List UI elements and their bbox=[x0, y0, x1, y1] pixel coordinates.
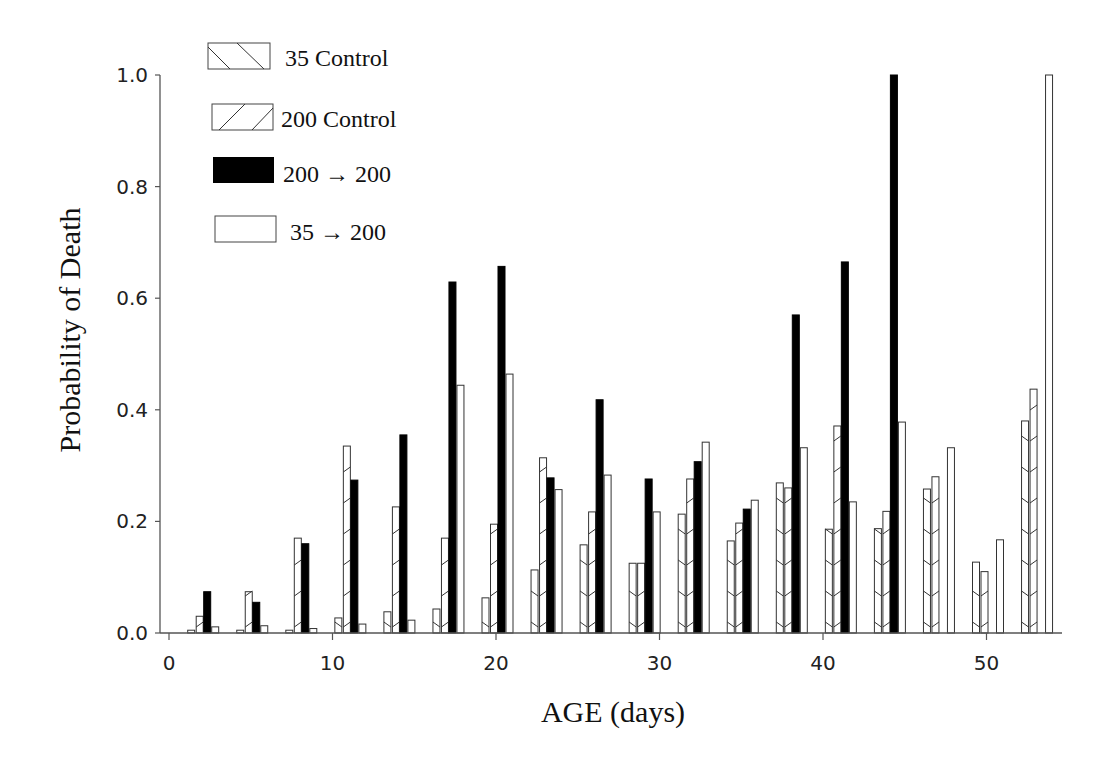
bar-open bbox=[800, 448, 807, 633]
bar-open bbox=[506, 374, 513, 633]
y-tick-label: 0.0 bbox=[116, 621, 148, 645]
legend: 35 Control200 Control200 → 20035 → 200 bbox=[208, 43, 397, 245]
bar-solid-black bbox=[547, 478, 554, 633]
bar-slash-hatch bbox=[245, 591, 252, 633]
bar-group-day-41 bbox=[825, 262, 856, 633]
bar-group-day-38 bbox=[776, 315, 807, 633]
legend-item: 35 → 200 bbox=[215, 216, 386, 245]
bar-slash-hatch bbox=[981, 572, 988, 633]
bar-slash-hatch bbox=[736, 523, 743, 633]
bar-slash-hatch bbox=[540, 458, 547, 633]
legend-item: 200 → 200 bbox=[213, 157, 391, 187]
legend-label: 35 Control bbox=[285, 45, 389, 71]
bar-solid-black bbox=[792, 315, 799, 633]
bar-slash-hatch bbox=[441, 538, 448, 633]
bar-group-day-35 bbox=[727, 500, 758, 633]
bar-slash-hatch bbox=[932, 477, 939, 633]
y-axis-title: Probability of Death bbox=[53, 208, 86, 453]
bar-solid-black bbox=[400, 435, 407, 633]
bar-open bbox=[997, 540, 1004, 633]
bar-slash-hatch bbox=[883, 511, 890, 633]
x-tick-label: 0 bbox=[163, 651, 176, 675]
x-tick-label: 40 bbox=[810, 651, 835, 675]
bar-backslash-hatch bbox=[482, 598, 489, 633]
bar-solid-black bbox=[596, 400, 603, 633]
bar-slash-hatch bbox=[687, 479, 694, 633]
bar-group-day-26 bbox=[580, 400, 611, 633]
bar-group-day-2 bbox=[188, 592, 219, 633]
bar-group-day-17 bbox=[433, 282, 464, 633]
bar-slash-hatch bbox=[343, 446, 350, 633]
bar-solid-black bbox=[498, 266, 505, 633]
legend-swatch-open bbox=[215, 216, 276, 242]
bar-group-day-8 bbox=[286, 538, 317, 633]
y-tick-label: 0.6 bbox=[116, 286, 148, 310]
bar-groups bbox=[188, 75, 1053, 633]
bar-open bbox=[555, 490, 562, 633]
legend-label: 200 → 200 bbox=[283, 161, 391, 187]
bar-backslash-hatch bbox=[825, 529, 832, 633]
bar-group-day-23 bbox=[531, 458, 562, 633]
y-tick-label: 0.2 bbox=[116, 509, 148, 533]
bar-open bbox=[261, 626, 268, 633]
bar-slash-hatch bbox=[785, 488, 792, 633]
bar-solid-black bbox=[694, 462, 701, 633]
bar-slash-hatch bbox=[294, 538, 301, 633]
bar-group-day-32 bbox=[678, 442, 709, 633]
x-tick-label: 10 bbox=[320, 651, 345, 675]
bar-solid-black bbox=[645, 479, 652, 633]
bar-backslash-hatch bbox=[874, 529, 881, 633]
bar-group-day-29 bbox=[629, 479, 660, 633]
legend-label: 200 Control bbox=[281, 106, 397, 132]
bar-open bbox=[653, 512, 660, 633]
bar-open bbox=[604, 475, 611, 633]
bar-open bbox=[898, 422, 905, 633]
x-tick-label: 30 bbox=[647, 651, 672, 675]
bar-open bbox=[212, 627, 219, 633]
bar-slash-hatch bbox=[638, 563, 645, 633]
bar-backslash-hatch bbox=[580, 545, 587, 633]
bar-open bbox=[947, 448, 954, 633]
bar-open bbox=[457, 385, 464, 633]
bar-open bbox=[849, 502, 856, 633]
legend-item: 200 Control bbox=[212, 104, 397, 132]
bar-group-day-53 bbox=[1022, 75, 1053, 633]
legend-swatch-slash-hatch bbox=[212, 104, 273, 130]
bar-open bbox=[751, 500, 758, 633]
bar-open bbox=[408, 620, 415, 633]
bar-group-day-20 bbox=[482, 266, 513, 633]
x-tick-label: 20 bbox=[483, 651, 508, 675]
y-tick-label: 0.4 bbox=[116, 398, 148, 422]
bar-group-day-5 bbox=[237, 591, 268, 633]
bar-slash-hatch bbox=[392, 507, 399, 633]
legend-label: 35 → 200 bbox=[290, 219, 386, 245]
legend-swatch-solid-black bbox=[213, 157, 274, 183]
legend-item: 35 Control bbox=[208, 43, 389, 71]
bar-backslash-hatch bbox=[973, 562, 980, 633]
bar-group-day-11 bbox=[335, 446, 366, 633]
bar-solid-black bbox=[204, 592, 211, 633]
y-axis-ticks: 0.00.20.40.60.81.0 bbox=[116, 63, 160, 645]
bar-group-day-50 bbox=[973, 540, 1004, 633]
bar-solid-black bbox=[253, 602, 260, 633]
mortality-bar-chart: 35 Control200 Control200 → 20035 → 200 0… bbox=[0, 0, 1112, 763]
bar-group-day-14 bbox=[384, 435, 415, 633]
bar-solid-black bbox=[302, 544, 309, 633]
bar-backslash-hatch bbox=[776, 483, 783, 633]
bar-slash-hatch bbox=[834, 426, 841, 633]
bar-backslash-hatch bbox=[335, 618, 342, 633]
y-tick-label: 1.0 bbox=[116, 63, 148, 87]
bar-group-day-44 bbox=[874, 75, 905, 633]
bar-backslash-hatch bbox=[384, 612, 391, 633]
bar-backslash-hatch bbox=[629, 563, 636, 633]
x-axis-title: AGE (days) bbox=[541, 695, 685, 729]
bar-open bbox=[702, 442, 709, 633]
bar-backslash-hatch bbox=[727, 541, 734, 633]
legend-swatch-backslash-hatch bbox=[208, 43, 270, 69]
bar-slash-hatch bbox=[196, 616, 203, 633]
bar-backslash-hatch bbox=[433, 609, 440, 633]
y-tick-label: 0.8 bbox=[116, 175, 148, 199]
bar-solid-black bbox=[841, 262, 848, 633]
bar-slash-hatch bbox=[491, 524, 498, 633]
bar-slash-hatch bbox=[589, 512, 596, 633]
